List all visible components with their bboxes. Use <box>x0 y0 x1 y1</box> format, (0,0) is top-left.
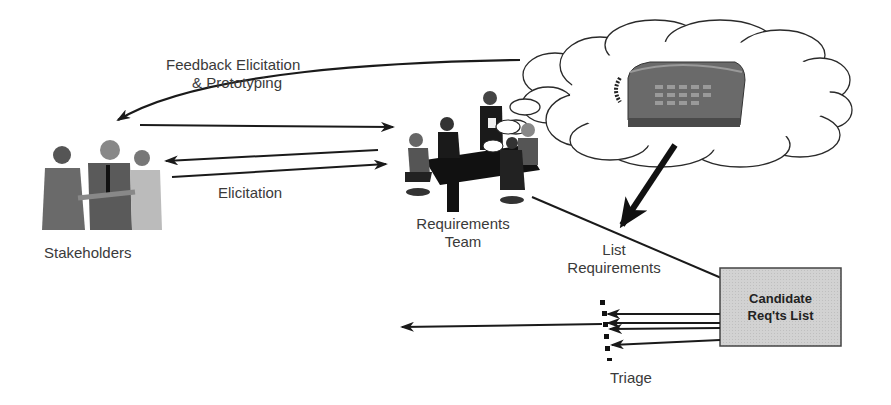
triage-label: Triage <box>610 369 652 387</box>
triage-filter-icon <box>600 300 612 361</box>
feedback-label: Feedback Elicitation & Prototyping <box>166 56 300 92</box>
candidate-list-label: Candidate Req'ts List <box>720 290 841 324</box>
telephone-icon <box>616 62 745 127</box>
candidate-label-line1: Candidate <box>720 290 841 307</box>
requirements-team-label-line1: Requirements <box>398 215 528 233</box>
stakeholders-label: Stakeholders <box>44 244 132 262</box>
requirements-team-label-line2: Team <box>398 233 528 251</box>
elicitation-forward-arrow <box>172 164 386 177</box>
list-requirements-label: List Requirements <box>554 241 674 277</box>
feedback-label-line1: Feedback Elicitation <box>166 56 300 74</box>
triage-output-arrow <box>402 324 602 327</box>
list-requirements-label-line1: List <box>554 241 674 259</box>
elicitation-label: Elicitation <box>218 184 282 202</box>
feedback-label-line2: & Prototyping <box>166 74 300 92</box>
candidate-label-line2: Req'ts List <box>720 307 841 324</box>
requirements-team-label: Requirements Team <box>398 215 528 251</box>
triage-arrows <box>608 314 720 345</box>
stakeholders-people-icon <box>42 140 162 230</box>
diagram-canvas <box>0 0 891 405</box>
stakeholders-to-team-arrow <box>140 125 393 127</box>
elicitation-back-arrow <box>166 150 378 161</box>
list-requirements-label-line2: Requirements <box>554 259 674 277</box>
